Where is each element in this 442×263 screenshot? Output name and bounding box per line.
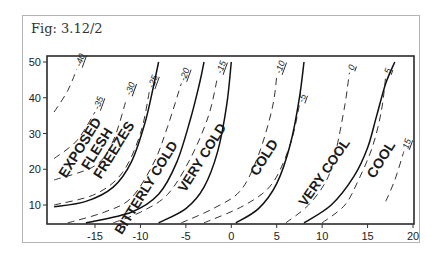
y-tick-label: 10 bbox=[29, 199, 41, 211]
isotherm-line bbox=[54, 69, 77, 112]
zone-label-line: BITTERLY COLD bbox=[112, 138, 181, 236]
zone-label: VERY COOL bbox=[296, 136, 353, 209]
x-tick-label: 0 bbox=[228, 230, 234, 242]
isotherm-label: -35 bbox=[91, 94, 105, 111]
x-tick-label: 15 bbox=[361, 230, 373, 242]
y-tick-label: 20 bbox=[29, 163, 41, 175]
x-tick-label: 5 bbox=[274, 230, 280, 242]
wind-chill-chart: -15-10-5051015201020304050 -40-35-30-25-… bbox=[0, 0, 442, 263]
zone-label: BITTERLY COLD bbox=[112, 138, 181, 236]
x-tick-label: -15 bbox=[87, 230, 103, 242]
x-tick-label: 20 bbox=[407, 230, 419, 242]
isotherm-label: -5 bbox=[296, 92, 308, 104]
isotherm-label: -20 bbox=[178, 66, 192, 82]
x-tick-label: -5 bbox=[181, 230, 191, 242]
y-tick-label: 50 bbox=[29, 56, 41, 68]
y-tick-label: 40 bbox=[29, 92, 41, 104]
y-tick-label: 30 bbox=[29, 128, 41, 140]
isotherm-label: -40 bbox=[73, 52, 87, 68]
isotherm-label: 0 bbox=[346, 63, 357, 71]
isotherm-label: -15 bbox=[214, 58, 228, 75]
zone-label-line: VERY COOL bbox=[296, 136, 353, 209]
zone-label-line: COLD bbox=[246, 136, 281, 178]
isotherm-label: 15 bbox=[400, 136, 413, 150]
zone-labels: EXPOSEDFLESHFREEZESBITTERLY COLDVERY COL… bbox=[55, 102, 398, 237]
x-tick-label: -10 bbox=[132, 230, 148, 242]
isotherm-label: -10 bbox=[273, 59, 287, 75]
isotherm-label: -30 bbox=[123, 81, 137, 97]
x-tick-label: 10 bbox=[316, 230, 328, 242]
zone-label: COLD bbox=[246, 136, 281, 178]
